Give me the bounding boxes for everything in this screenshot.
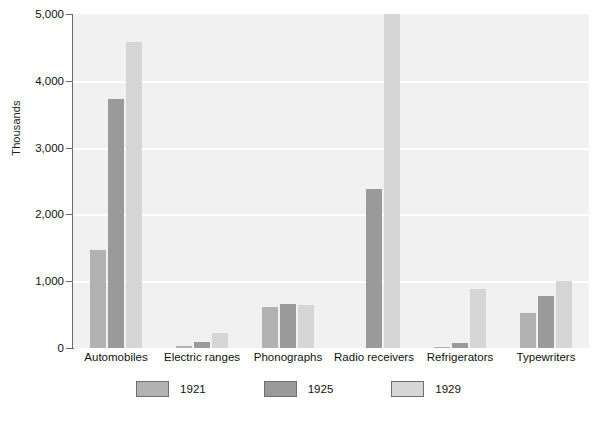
y-tick-label: 4,000 (35, 75, 64, 87)
bar-phonographs-1925 (280, 304, 296, 348)
bar-refrigerators-1925 (452, 343, 468, 348)
x-axis-label-typewriters: Typewriters (517, 351, 576, 363)
y-axis-tick (66, 214, 73, 215)
bar-typewriters-1921 (520, 313, 536, 348)
legend-label: 1925 (308, 383, 334, 395)
bar-electric-ranges-1929 (212, 333, 228, 348)
legend-item-1925[interactable]: 1925 (264, 381, 334, 397)
y-tick-label: 2,000 (35, 208, 64, 220)
bar-typewriters-1925 (538, 296, 554, 348)
x-axis-category-labels: AutomobilesElectric rangesPhonographsRad… (73, 351, 589, 369)
x-axis-zero-tick (66, 348, 74, 349)
bar-refrigerators-1921 (434, 347, 450, 348)
y-tick-label: 0 (58, 342, 64, 354)
bar-refrigerators-1929 (470, 289, 486, 348)
bar-phonographs-1929 (298, 305, 314, 348)
bar-automobiles-1925 (108, 99, 124, 348)
bar-typewriters-1929 (556, 281, 572, 348)
y-axis-tick (66, 14, 73, 15)
bar-electric-ranges-1921 (176, 346, 192, 348)
x-axis-label-automobiles: Automobiles (84, 351, 147, 363)
legend-swatch-icon (391, 381, 424, 397)
x-axis-label-refrigerators: Refrigerators (427, 351, 493, 363)
y-tick-label: 3,000 (35, 142, 64, 154)
plot-area (73, 14, 589, 348)
bar-phonographs-1921 (262, 307, 278, 348)
bar-automobiles-1921 (90, 250, 106, 348)
bar-radio-receivers-1929 (384, 14, 400, 348)
legend-swatch-icon (136, 381, 169, 397)
bar-automobiles-1929 (126, 42, 142, 348)
bar-chart: Thousands 5,000 4,000 3,000 2,000 1,000 … (0, 0, 597, 423)
legend: 1921 1925 1929 (0, 381, 597, 397)
legend-label: 1929 (435, 383, 461, 395)
y-tick-label: 5,000 (35, 8, 64, 20)
x-axis-label-phonographs: Phonographs (254, 351, 322, 363)
legend-label: 1921 (180, 383, 206, 395)
y-axis-tick (66, 281, 73, 282)
y-axis-tick (66, 148, 73, 149)
y-axis-tick (66, 81, 73, 82)
x-axis-label-radio-receivers: Radio receivers (334, 351, 414, 363)
bar-electric-ranges-1925 (194, 342, 210, 348)
legend-swatch-icon (264, 381, 297, 397)
legend-item-1929[interactable]: 1929 (391, 381, 461, 397)
legend-item-1921[interactable]: 1921 (136, 381, 206, 397)
y-axis-tick-labels: 5,000 4,000 3,000 2,000 1,000 0 (0, 0, 68, 423)
bar-radio-receivers-1925 (366, 189, 382, 348)
bars-layer (73, 14, 589, 348)
y-tick-label: 1,000 (35, 275, 64, 287)
x-axis-label-electric-ranges: Electric ranges (164, 351, 240, 363)
